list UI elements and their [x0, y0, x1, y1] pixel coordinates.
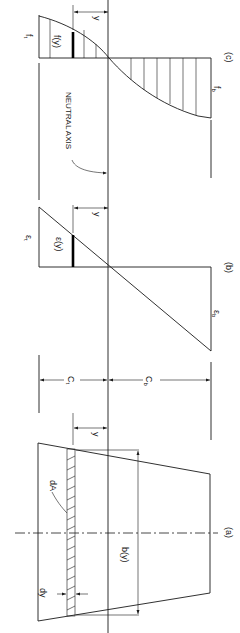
y-label-a: y [91, 432, 101, 437]
neutral-axis-group: NEUTRAL AXIS [39, 0, 211, 633]
panel-a-label: (a) [224, 527, 234, 538]
c-t-label: Ct [65, 376, 76, 385]
dy-label: dy [38, 588, 48, 598]
eps-b-label: εb [211, 310, 222, 318]
panel-c-stress-distribution: y ft f(y) fb (c) [23, 5, 234, 118]
beam-stress-strain-diagram: y ft f(y) fb (c) NEUTRAL AXIS y εt ε(y [0, 0, 240, 633]
dA-label: dA [48, 480, 58, 491]
f-y-label: f(y) [52, 35, 62, 48]
neutral-axis-label: NEUTRAL AXIS [64, 92, 73, 149]
stress-hatching-compression [131, 58, 196, 115]
eps-y-label: ε(y) [54, 237, 64, 252]
b-y-label: b(y) [120, 547, 130, 563]
strip-dA [67, 449, 75, 616]
panel-a-cross-section: y dA dy b(y) (a) [15, 413, 234, 621]
f-b-label: fb [211, 86, 222, 93]
panel-b-label: (b) [224, 262, 234, 273]
panel-c-label: (c) [224, 52, 234, 63]
panel-b-strain-distribution: y εt ε(y) εb (b) [23, 205, 234, 351]
strain-line [39, 207, 211, 351]
f-t-label: ft [23, 34, 34, 39]
c-b-label: Cb [143, 376, 154, 387]
neutral-axis-leader [72, 160, 106, 173]
y-label-c: y [92, 16, 102, 21]
dA-leader [52, 492, 67, 513]
depth-dimensions: Ct Cb [39, 355, 211, 440]
y-label-b: y [92, 212, 102, 217]
eps-t-label: εt [23, 235, 34, 241]
